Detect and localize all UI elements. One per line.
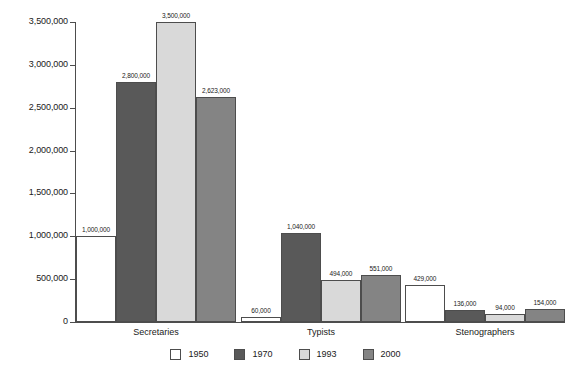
bar	[485, 314, 525, 322]
y-axis-tick-label: 3,000,000	[2, 60, 68, 69]
bar-value-label: 551,000	[352, 265, 410, 272]
y-axis-tick-label: 2,000,000	[2, 146, 68, 155]
bar	[76, 236, 116, 322]
y-axis-tick-label: 1,000,000	[2, 231, 68, 240]
bar-value-label: 3,500,000	[147, 12, 205, 19]
bar	[321, 280, 361, 322]
legend-label: 2000	[381, 350, 401, 359]
legend-swatch	[234, 349, 245, 360]
bar	[525, 309, 565, 322]
legend-item: 1993	[299, 349, 337, 360]
y-axis-tick-label: 2,500,000	[2, 103, 68, 112]
bar	[196, 97, 236, 322]
legend-item: 1970	[234, 349, 272, 360]
plot-area: 1,000,0002,800,0003,500,0002,623,00060,0…	[76, 22, 565, 322]
x-axis-line	[75, 322, 565, 323]
bar	[361, 275, 401, 322]
y-axis-tick-label: 0	[2, 317, 68, 326]
bar	[156, 22, 196, 322]
legend-swatch	[363, 349, 374, 360]
x-axis-category-label: Stenographers	[385, 327, 571, 337]
bar-value-label: 429,000	[396, 275, 454, 282]
bar-value-label: 2,623,000	[187, 87, 245, 94]
bar	[281, 233, 321, 322]
legend-item: 2000	[363, 349, 401, 360]
bar	[116, 82, 156, 322]
y-axis-tick-label: 1,500,000	[2, 188, 68, 197]
chart-legend: 1950197019932000	[0, 346, 571, 362]
legend-item: 1950	[170, 349, 208, 360]
bar-chart: 0500,0001,000,0001,500,0002,000,0002,500…	[0, 0, 571, 372]
legend-label: 1993	[317, 350, 337, 359]
legend-label: 1970	[252, 350, 272, 359]
legend-swatch	[299, 349, 310, 360]
bar-value-label: 154,000	[516, 299, 571, 306]
y-axis-tick-label: 500,000	[2, 274, 68, 283]
bar	[445, 310, 485, 322]
bar	[241, 317, 281, 322]
y-axis-tick	[70, 322, 76, 323]
y-axis-tick-label: 3,500,000	[2, 17, 68, 26]
legend-swatch	[170, 349, 181, 360]
legend-label: 1950	[188, 350, 208, 359]
bar-value-label: 1,040,000	[272, 223, 330, 230]
